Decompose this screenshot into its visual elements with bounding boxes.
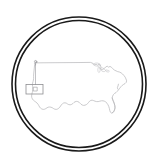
emblem-canvas: Line-art map of the contiguous United St… xyxy=(0,0,158,160)
background-plate xyxy=(0,0,158,160)
us-map-emblem xyxy=(0,0,158,160)
